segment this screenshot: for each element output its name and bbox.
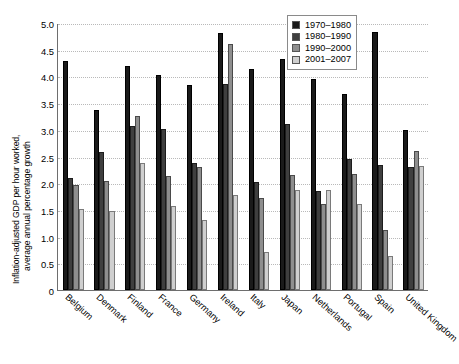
- bar-group: [120, 24, 151, 290]
- bar: [109, 211, 114, 290]
- y-tick-label: 4.5: [20, 45, 54, 56]
- legend-swatch-icon: [292, 33, 300, 41]
- x-tick-label: Italy: [249, 292, 268, 311]
- bar: [388, 256, 393, 290]
- x-tick-label: Belgium: [63, 292, 95, 322]
- bar: [171, 206, 176, 290]
- y-tick-label: 3.0: [20, 125, 54, 136]
- y-tick-label: 2.5: [20, 152, 54, 163]
- legend-item: 1980–1990: [292, 31, 351, 42]
- x-tick-label: Japan: [280, 292, 306, 316]
- legend-item: 1990–2000: [292, 43, 351, 54]
- x-tick-label: France: [156, 292, 184, 319]
- legend-item: 2001–2007: [292, 54, 351, 65]
- bar-series-container: [58, 24, 428, 290]
- legend-label: 1970–1980: [305, 20, 351, 31]
- bar-group: [58, 24, 89, 290]
- y-tick-label: 5.0: [20, 19, 54, 30]
- bar: [202, 220, 207, 290]
- plot-area: [57, 24, 428, 291]
- bar-group: [367, 24, 398, 290]
- y-tick-label: 4.0: [20, 72, 54, 83]
- x-axis-tick-labels: BelgiumDenmarkFinlandFranceGermanyIrelan…: [57, 292, 428, 364]
- y-tick-label: 0.5: [20, 259, 54, 270]
- bar: [79, 209, 84, 290]
- bar: [326, 190, 331, 290]
- legend-swatch-icon: [292, 44, 300, 52]
- x-tick-label: Ireland: [218, 292, 246, 318]
- x-tick-label: Finland: [125, 292, 154, 320]
- legend-label: 1980–1990: [305, 31, 351, 42]
- legend-item: 1970–1980: [292, 20, 351, 31]
- legend-label: 2001–2007: [305, 54, 351, 65]
- y-tick-label: 2.0: [20, 179, 54, 190]
- x-tick-label: Germany: [187, 292, 222, 325]
- legend-swatch-icon: [292, 56, 300, 64]
- bar: [264, 252, 269, 290]
- x-tick-label: United Kingdom: [403, 292, 459, 344]
- x-tick-label: Denmark: [94, 292, 129, 325]
- bar: [295, 190, 300, 290]
- legend-swatch-icon: [292, 21, 300, 29]
- y-axis-tick-labels: 5.04.54.03.53.02.52.01.51.00.50: [20, 24, 54, 291]
- y-tick-label: 1.5: [20, 205, 54, 216]
- bar-group: [213, 24, 244, 290]
- x-tick-label: Spain: [372, 292, 396, 315]
- bar: [233, 195, 238, 290]
- bar-group: [182, 24, 213, 290]
- bar-group: [89, 24, 120, 290]
- bar-group: [151, 24, 182, 290]
- legend: 1970–19801980–19901990–20002001–2007: [287, 15, 357, 70]
- y-tick-label: 1.0: [20, 232, 54, 243]
- bar-group: [398, 24, 429, 290]
- bar: [357, 204, 362, 291]
- bar: [419, 166, 424, 290]
- bar: [140, 163, 145, 290]
- bar-group: [244, 24, 275, 290]
- legend-label: 1990–2000: [305, 43, 351, 54]
- y-tick-label: 0: [20, 286, 54, 297]
- y-tick-label: 3.5: [20, 99, 54, 110]
